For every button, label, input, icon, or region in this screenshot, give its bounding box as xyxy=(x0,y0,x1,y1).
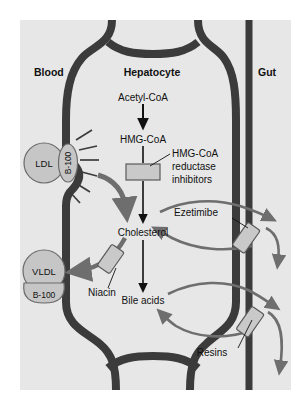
ezetimibe-label: Ezetimibe xyxy=(174,207,218,218)
statin-label-line3: inhibitors xyxy=(172,174,212,185)
compartment-label-blood: Blood xyxy=(34,66,64,78)
vldl-apo-label: B-100 xyxy=(33,290,56,300)
metabolite-hmg-coa: HMG-CoA xyxy=(120,134,166,145)
ldl-apo-label: B-100 xyxy=(63,151,73,174)
statin-label-line2: reductase xyxy=(172,161,216,172)
niacin-label: Niacin xyxy=(88,287,116,298)
metabolite-cholesterol: Cholesterol xyxy=(118,227,169,238)
compartment-label-hepatocyte: Hepatocyte xyxy=(124,66,181,78)
vldl-particle[interactable]: VLDL B-100 xyxy=(23,250,65,303)
statin-label-line1: HMG-CoA xyxy=(172,148,218,159)
metabolite-bile-acids: Bile acids xyxy=(122,295,165,306)
figure-root: LDL B-100 VLDL B-100 Blood Hepatocyte xyxy=(0,0,306,412)
ldl-label: LDL xyxy=(35,158,52,169)
ldl-particle[interactable]: LDL B-100 xyxy=(24,143,78,183)
vldl-label: VLDL xyxy=(32,266,56,277)
compartment-label-gut: Gut xyxy=(258,66,277,78)
statin-inhibitor-block[interactable] xyxy=(126,164,160,180)
resins-label: Resins xyxy=(197,347,228,358)
metabolite-acetyl-coa: Acetyl-CoA xyxy=(118,92,168,103)
lipid-pathway-diagram: LDL B-100 VLDL B-100 Blood Hepatocyte xyxy=(0,0,306,412)
